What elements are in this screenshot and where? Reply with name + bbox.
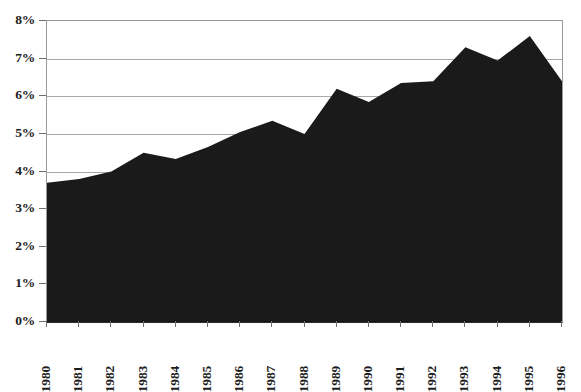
x-axis-tick-label: 1981 — [71, 366, 85, 392]
y-axis-tick-label: 1% — [15, 277, 35, 291]
x-axis-tick-mark — [497, 321, 498, 327]
y-axis-tick-mark — [39, 20, 46, 21]
x-axis-tick-mark — [239, 321, 240, 327]
x-axis-tick-label: 1989 — [329, 366, 343, 392]
x-axis-tick-label: 1993 — [458, 366, 472, 392]
x-axis-tick-label: 1995 — [522, 366, 536, 392]
area-polygon — [47, 36, 562, 322]
y-axis-tick-mark — [39, 171, 46, 172]
y-axis-tick-mark — [39, 246, 46, 247]
x-axis-tick-mark — [561, 321, 562, 327]
x-axis-tick-label: 1992 — [426, 366, 440, 392]
y-axis-tick-mark — [39, 95, 46, 96]
x-axis-tick-mark — [46, 321, 47, 327]
x-axis-tick-mark — [78, 321, 79, 327]
x-axis-tick-label: 1986 — [232, 366, 246, 392]
x-axis-tick-label: 1987 — [265, 366, 279, 392]
x-axis-tick-label: 1991 — [393, 366, 407, 392]
y-axis-tick-label: 5% — [15, 126, 35, 140]
x-axis-tick-mark — [271, 321, 272, 327]
y-axis-tick-label: 7% — [15, 51, 35, 65]
x-axis-tick-label: 1982 — [104, 366, 118, 392]
x-axis-tick-mark — [432, 321, 433, 327]
x-axis-tick-mark — [336, 321, 337, 327]
x-axis-tick-label: 1988 — [297, 366, 311, 392]
x-axis-tick-mark — [143, 321, 144, 327]
x-axis-tick-label: 1985 — [200, 366, 214, 392]
x-axis-tick-mark — [110, 321, 111, 327]
x-axis-tick-mark — [368, 321, 369, 327]
y-axis-tick-label: 2% — [15, 239, 35, 253]
y-axis-tick-mark — [39, 283, 46, 284]
y-axis-tick-label: 3% — [15, 201, 35, 215]
y-axis-tick-label: 8% — [15, 13, 35, 27]
area-series — [47, 21, 562, 322]
x-axis: 1980198119821983198419851986198719881989… — [0, 321, 581, 370]
y-axis-tick-mark — [39, 208, 46, 209]
x-axis-tick-mark — [464, 321, 465, 327]
y-axis-tick-mark — [39, 58, 46, 59]
plot-area — [46, 20, 563, 323]
x-axis-tick-mark — [529, 321, 530, 327]
x-axis-tick-label: 1980 — [39, 366, 53, 392]
x-axis-tick-mark — [400, 321, 401, 327]
x-axis-tick-label: 1990 — [361, 366, 375, 392]
x-axis-tick-label: 1983 — [136, 366, 150, 392]
y-axis-tick-label: 4% — [15, 164, 35, 178]
x-axis-tick-label: 1984 — [168, 366, 182, 392]
y-axis-tick-label: 6% — [15, 89, 35, 103]
x-axis-tick-mark — [207, 321, 208, 327]
y-axis-tick-mark — [39, 133, 46, 134]
x-axis-tick-mark — [175, 321, 176, 327]
x-axis-tick-mark — [304, 321, 305, 327]
x-axis-tick-label: 1994 — [490, 366, 504, 392]
x-axis-tick-label: 1996 — [554, 366, 568, 392]
y-axis: 0%1%2%3%4%5%6%7%8% — [0, 0, 46, 341]
